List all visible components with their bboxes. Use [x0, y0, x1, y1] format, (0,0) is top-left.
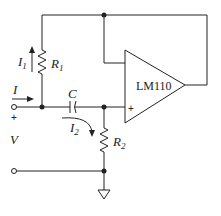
ground-icon [98, 190, 110, 199]
resistor-r1 [38, 15, 46, 107]
r1-label: R1 [50, 56, 63, 73]
i2-label: I2 [69, 120, 79, 137]
junction-r1 [40, 105, 45, 110]
bottom-wire [16, 171, 104, 190]
junction-bottom [102, 169, 107, 174]
circuit-svg: LM110 + R1 I1 C I + V I2 R2 [0, 0, 221, 216]
opamp-plus-sign: + [128, 103, 134, 114]
output-wire [185, 15, 207, 85]
c-label: C [68, 86, 77, 101]
opamp-label: LM110 [136, 79, 172, 93]
i-label: I [12, 82, 18, 97]
feedback-wire [104, 15, 125, 63]
input-terminal-bottom [12, 169, 17, 174]
opamp-lm110: LM110 + [125, 50, 185, 123]
current-i1-arrow [29, 46, 35, 72]
i1-label: I1 [17, 54, 27, 71]
input-terminal-top [12, 105, 17, 110]
circuit-diagram: LM110 + R1 I1 C I + V I2 R2 [0, 0, 221, 216]
r2-label: R2 [112, 134, 126, 151]
resistor-r2 [100, 107, 108, 171]
v-plus-sign: + [11, 112, 17, 123]
v-label: V [10, 132, 20, 147]
